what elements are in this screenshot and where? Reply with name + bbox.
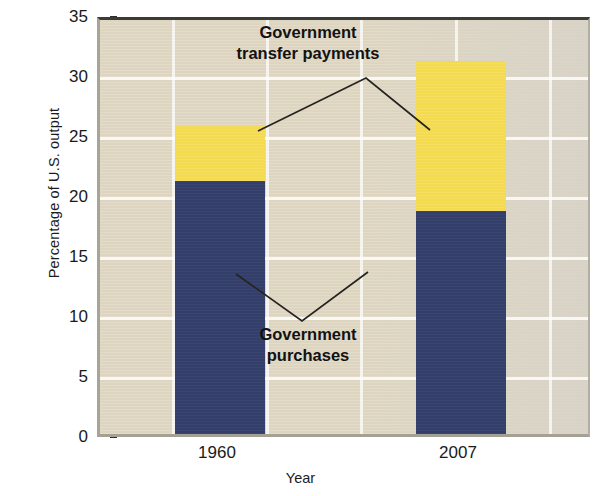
stacked-bar-chart-figure: Percentage of U.S. output 35 30 25 20 15… [0, 0, 601, 496]
callout-government-purchases: Government purchases [208, 324, 408, 366]
y-tick-label-5: 5 [28, 367, 88, 387]
y-tick-label-25: 25 [28, 127, 88, 147]
gridline-v-5 [549, 20, 552, 434]
gridline-v-2 [266, 20, 269, 434]
callout-government-purchases-line2: purchases [208, 345, 408, 366]
plot-area [97, 17, 590, 437]
bar-1960-government-purchases [175, 181, 265, 437]
callout-transfer-payments-line2: transfer payments [178, 43, 438, 64]
x-axis-title: Year [0, 470, 601, 486]
y-tick-label-30: 30 [28, 67, 88, 87]
x-tick-label-1960: 1960 [147, 443, 287, 463]
bar-2007-government-transfer-payments [416, 61, 506, 211]
gridline-v-3 [360, 20, 363, 434]
callout-transfer-payments-line1: Government [178, 22, 438, 43]
y-tick-label-20: 20 [28, 187, 88, 207]
bar-2007-government-purchases [416, 211, 506, 437]
y-tick-label-0: 0 [28, 427, 88, 447]
callout-transfer-payments: Government transfer payments [178, 22, 438, 64]
y-tick-label-35: 35 [28, 7, 88, 27]
y-tick-label-15: 15 [28, 247, 88, 267]
y-axis-tick-labels: 35 30 25 20 15 10 5 0 [22, 0, 88, 496]
callout-government-purchases-line1: Government [208, 324, 408, 345]
y-tick-label-10: 10 [28, 307, 88, 327]
x-tick-label-2007: 2007 [388, 443, 528, 463]
bar-1960-government-transfer-payments [175, 125, 265, 181]
